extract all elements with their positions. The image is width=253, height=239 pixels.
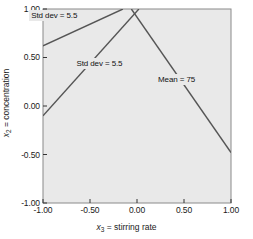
plot-area-background xyxy=(43,9,231,203)
annotation-stddev-upper: Std dev = 5.5 xyxy=(29,10,79,21)
xtick-label-3: 0.50 xyxy=(164,205,204,215)
annotation-mean: Mean = 75 xyxy=(156,74,197,85)
xtick-label-0: -1.00 xyxy=(23,205,63,215)
xtick-label-1: -0.50 xyxy=(70,205,110,215)
y-axis-title-wrapper: x2 = concentration xyxy=(0,0,14,205)
y-axis-title: x2 = concentration xyxy=(1,23,11,183)
x-axis-title: x3 = stirring rate xyxy=(0,222,253,232)
xtick-label-2: 0.00 xyxy=(117,205,157,215)
annotation-stddev-lower: Std dev = 5.5 xyxy=(74,58,124,69)
xtick-label-4: 1.00 xyxy=(211,205,251,215)
contour-plot-figure: 1.00 0.50 0.00 -0.50 -1.00 -1.00 -0.50 0… xyxy=(0,0,253,239)
